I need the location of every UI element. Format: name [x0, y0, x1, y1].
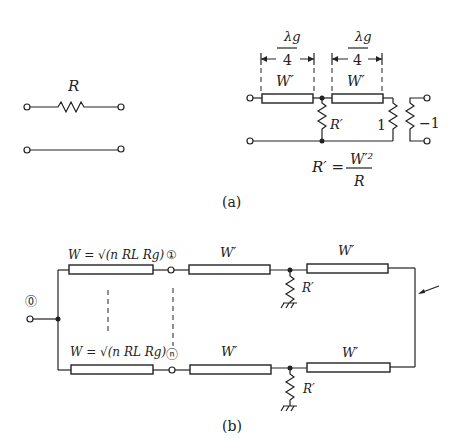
- resistor-label: R: [67, 77, 79, 95]
- branch-line-top: [69, 265, 153, 274]
- formula-numerator: W′²: [350, 151, 374, 167]
- transmission-line-top-2: [307, 264, 388, 273]
- terminal-icon: [424, 138, 430, 144]
- line-label-top-1: W′: [220, 245, 236, 260]
- terminal-icon: [118, 104, 124, 110]
- branch-line-bottom: [71, 365, 153, 374]
- terminal-icon: [24, 147, 30, 153]
- shunt-label: R′: [329, 117, 343, 132]
- line-label-w-prime-2: W′: [347, 73, 365, 89]
- line-label-bottom-2: W′: [342, 345, 358, 360]
- dim-denominator-1: 4: [283, 52, 292, 68]
- line-label-top-2: W′: [338, 243, 354, 258]
- branch-top-impedance: W = √(n RL Rg): [68, 248, 164, 262]
- terminal-icon: [168, 267, 174, 273]
- formula-lhs: R′ =: [311, 158, 344, 176]
- transmission-line-top-1: [189, 265, 270, 274]
- quarter-wave-equivalent-circuit: λg λg 4 4 W′ W′ R′ 1: [222, 29, 440, 210]
- lambda-g-label-1: λg: [283, 29, 301, 44]
- formula-denominator: R: [353, 173, 365, 189]
- resistor-icon: [30, 102, 118, 112]
- caption-a: (a): [222, 194, 241, 210]
- lambda-g-label-2: λg: [354, 29, 372, 44]
- terminal-icon: [424, 95, 430, 101]
- dim-denominator-2: 4: [353, 52, 362, 68]
- branch-bottom-impedance: W = √(n RL Rg): [70, 345, 166, 359]
- port-1-label: ①: [166, 248, 177, 262]
- load-resistor-icon: [389, 98, 397, 141]
- shunt-resistor-icon: [286, 270, 294, 303]
- transmission-line-bottom-1: [190, 365, 271, 374]
- shunt-resistor-icon: [318, 98, 326, 141]
- load-label: 1: [377, 117, 386, 133]
- terminal-icon: [247, 95, 253, 101]
- ground-icon: [281, 406, 297, 411]
- terminal-icon: [27, 316, 33, 322]
- terminal-icon: [118, 146, 124, 152]
- terminal-icon: [247, 138, 253, 144]
- terminal-icon: [169, 367, 175, 373]
- series-resistor-circuit: R: [24, 77, 124, 153]
- ground-icon: [281, 303, 297, 308]
- transmission-line-bottom-2: [307, 363, 390, 372]
- port-0-label: ⓪: [25, 295, 37, 309]
- caption-b: (b): [222, 418, 242, 434]
- port-n-label: ⓝ: [166, 348, 178, 362]
- shunt-label-top: R′: [301, 281, 314, 295]
- n-way-divider-circuit: ⓪ W = √(n RL Rg) ① W′ W′ R′ W = √(n RL R…: [25, 243, 439, 434]
- transmission-line-1: [262, 94, 313, 103]
- circuit-diagram: R λg λg 4 4 W′ W′: [0, 0, 460, 444]
- negative-load-label: −1: [419, 115, 440, 131]
- line-label-w-prime-1: W′: [276, 73, 294, 89]
- line-label-bottom-1: W′: [221, 344, 237, 359]
- shunt-resistor-icon: [286, 368, 294, 406]
- shunt-label-bottom: R′: [302, 382, 315, 396]
- terminal-icon: [24, 104, 30, 110]
- transmission-line-2: [332, 94, 383, 103]
